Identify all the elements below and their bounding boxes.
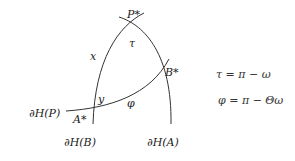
label-boundary-h-a: ∂H(A): [147, 136, 179, 149]
curve-h-b: [93, 13, 144, 124]
equation-phi: φ = π − Θω: [218, 94, 283, 107]
label-boundary-h-b: ∂H(B): [64, 136, 96, 149]
curve-h-p: [66, 59, 169, 111]
label-b-star: B*: [164, 66, 179, 79]
label-boundary-h-p: ∂H(P): [29, 107, 60, 120]
label-phi: φ: [127, 97, 135, 110]
label-a-star: A*: [72, 113, 87, 126]
label-p-star: P*: [126, 8, 140, 21]
label-y: y: [97, 93, 105, 106]
label-x: x: [90, 50, 97, 63]
equation-tau: τ = π − ω: [216, 68, 271, 81]
label-tau: τ: [129, 37, 136, 50]
hyperbolic-triangle-diagram: P* B* A* τ x y φ ∂H(P) ∂H(B) ∂H(A) τ = π…: [0, 0, 295, 161]
